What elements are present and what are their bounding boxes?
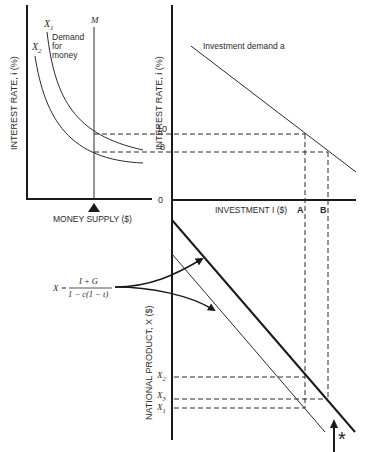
curve-x2-label: X2 [31, 41, 42, 55]
investment-y-axis-label: INTEREST RATE, i (%) [154, 56, 164, 150]
investment-x-axis-label: INVESTMENT I ($) [215, 205, 287, 215]
money-y-axis-label: INTEREST RATE, i (%) [9, 56, 19, 150]
investment-drop-lines [305, 134, 328, 408]
is-lm-diagram: INTEREST RATE, i (%) MONEY SUPPLY ($) X1… [0, 0, 366, 452]
point-b-label: B [320, 205, 327, 215]
point-a-label: A [297, 205, 304, 215]
multiplier-line-thin [172, 254, 325, 432]
x3-label: X3 [156, 390, 167, 402]
demand-curve-x2 [35, 56, 143, 163]
formula-arrow-lower [115, 287, 214, 310]
x2-label: X2 [156, 370, 167, 382]
tick-10: 10 [157, 124, 167, 134]
x1-label: X1 [156, 402, 166, 414]
formula-denominator: 1 − c(1 − t) [68, 289, 108, 299]
investment-demand-label: Investment demand a [203, 41, 285, 51]
demand-label-line3: money [52, 50, 78, 60]
investment-panel: INTEREST RATE, i (%) Investment demand a… [154, 41, 356, 215]
money-supply-marker-icon [88, 203, 100, 212]
interest-rate-connectors [94, 134, 328, 152]
national-product-panel: X = I + G 1 − c(1 − t) NATIONAL PRODUCT,… [52, 220, 355, 452]
money-market-panel: INTEREST RATE, i (%) MONEY SUPPLY ($) X1… [9, 5, 152, 224]
origin-label: 0 [158, 195, 163, 205]
formula-lhs: X = [52, 283, 67, 293]
tick-8: 8 [160, 142, 165, 152]
asterisk-label: * [338, 428, 346, 450]
investment-demand-line [191, 46, 356, 172]
curve-x1-label: X1 [43, 18, 54, 32]
formula-numerator: I + G [78, 276, 98, 286]
shift-arrow-up-icon [330, 419, 338, 428]
money-supply-m-label: M [90, 15, 99, 25]
money-x-axis-label: MONEY SUPPLY ($) [53, 214, 132, 224]
national-product-y-axis-label: NATIONAL PRODUCT, X ($) [144, 305, 154, 420]
